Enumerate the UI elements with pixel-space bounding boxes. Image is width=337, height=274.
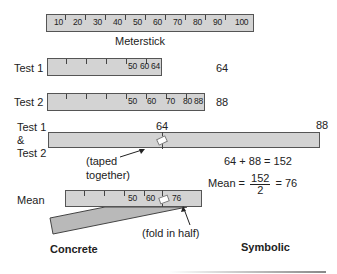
tick-label: 50 [128,96,137,106]
test2-label: Test 2 [14,96,43,108]
arrow-icon [118,146,148,160]
tick-label: 90 [213,17,222,27]
symbolic-heading: Symbolic [241,241,290,253]
tick-label: 100 [235,17,248,27]
divider [168,271,326,273]
tape-piece [156,135,168,146]
tick-label: 70 [173,17,182,27]
tick-label: 60 [147,96,156,106]
test1-value: 64 [216,62,228,74]
mark-64: 64 [156,120,168,132]
sum-equation: 64 + 88 = 152 [224,155,292,167]
tape-piece [158,195,170,205]
tick-label: 64 [151,61,160,71]
mark-88: 88 [316,119,328,131]
meterstick-label: Meterstick [115,35,165,47]
tick-label: 88 [194,96,203,106]
tick-label: 20 [73,17,82,27]
tick-label: 30 [93,17,102,27]
combined-label: Test 1 & Test 2 [17,121,46,160]
tick-label: 80 [193,17,202,27]
tick-label: 76 [172,193,181,203]
tick-label: 50 [128,61,137,71]
meterstick-bar: 10 20 30 40 50 60 70 80 90 100 [46,14,254,32]
arrow-icon [180,205,194,227]
mean-equation: Mean = 1522 = 76 [208,173,297,196]
fold-note: (fold in half) [142,227,199,239]
concrete-heading: Concrete [50,243,98,255]
test1-bar: 50 60 64 [47,58,162,76]
mean-label: Mean [17,194,45,206]
tick-label: 10 [54,17,63,27]
tick-label: 50 [128,193,137,203]
test2-bar: 50 60 70 80 88 [47,93,205,111]
test1-label: Test 1 [14,62,43,74]
combined-bar [48,132,320,148]
test2-value: 88 [216,96,228,108]
tick-label: 70 [166,96,175,106]
tick-label: 80 [183,96,192,106]
tick-label: 60 [146,193,155,203]
tick-label: 40 [113,17,122,27]
tick-label: 60 [140,61,149,71]
tick-label: 50 [133,17,142,27]
tick-label: 60 [153,17,162,27]
